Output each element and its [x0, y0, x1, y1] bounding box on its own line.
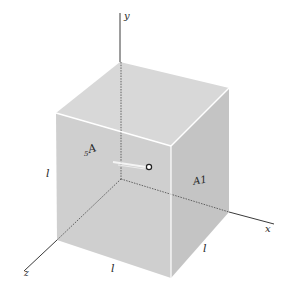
y-axis-label: y: [123, 10, 130, 21]
x-axis-label: x: [265, 223, 271, 234]
point-charge: [146, 164, 151, 169]
edge-label-bottom: l: [111, 262, 115, 275]
edge-label-right: l: [203, 242, 207, 255]
z-axis: [24, 240, 57, 271]
cube-diagram: y x z l l l A1 5 A: [0, 0, 285, 295]
edge-label-left: l: [46, 167, 50, 180]
z-axis-label: z: [23, 268, 29, 278]
